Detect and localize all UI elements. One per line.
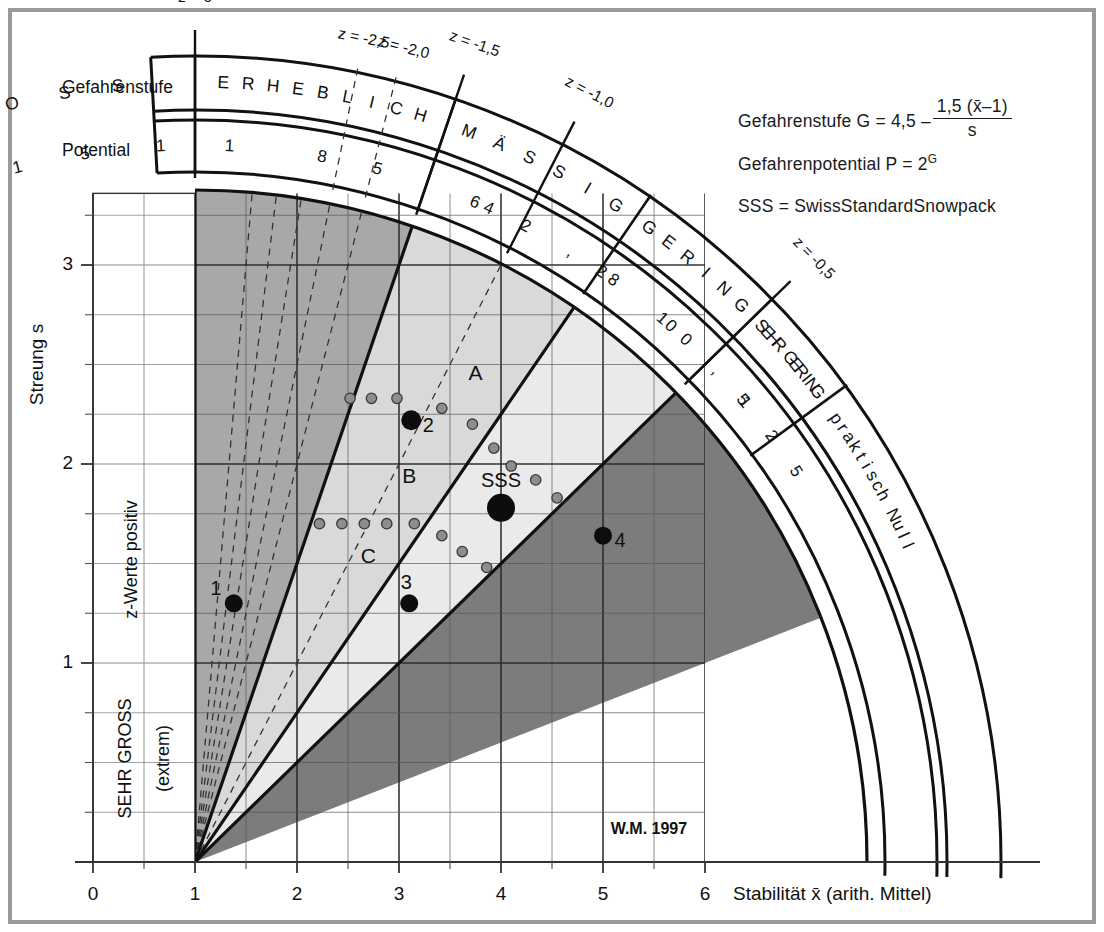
x-tick-label-6: 6 <box>700 883 711 904</box>
legend-sss: SSS = SwissStandardSnowpack <box>738 196 996 217</box>
svg-text:,: , <box>708 362 725 378</box>
gefahrenstufe-label: Gefahrenstufe <box>62 77 173 97</box>
svg-text:S: S <box>520 146 539 169</box>
formula-gefahrenstufe: Gefahrenstufe G = 4,5 –1,5 (x̄–1)s <box>738 96 1014 141</box>
potential-value-7: 2,8 <box>517 215 623 290</box>
svg-text:B: B <box>315 81 330 103</box>
svg-text:,: , <box>422 174 433 194</box>
region-label-A: A <box>468 361 482 384</box>
label-extrem: (extrem) <box>153 725 173 792</box>
data-point-label-SSS: SSS <box>481 469 521 491</box>
svg-text:8: 8 <box>316 146 329 166</box>
x-tick-label-0: 0 <box>88 883 99 904</box>
svg-text:M: M <box>459 119 480 143</box>
z-line-label-1: z = 0 <box>178 0 212 5</box>
z-line-label-4: z = -1,5 <box>447 27 502 60</box>
y-axis-title: Streung s <box>26 324 47 405</box>
x-tick-label-2: 2 <box>292 883 303 904</box>
svg-text:E: E <box>217 72 229 92</box>
svg-text:G: G <box>730 293 754 317</box>
svg-text:C: C <box>388 97 405 120</box>
region-label-C: C <box>361 544 376 567</box>
potential-label: Potential <box>62 140 130 160</box>
svg-text:Ä: Ä <box>490 132 509 155</box>
svg-text:O: O <box>3 92 21 115</box>
z-line-label-3: z = -1,0 <box>563 72 617 111</box>
formula-denominator: s <box>933 118 1012 141</box>
label-z-werte-positiv: z-Werte positiv <box>121 500 141 619</box>
svg-text:H: H <box>411 103 429 126</box>
svg-text:G: G <box>638 215 661 239</box>
data-point-label-3: 3 <box>401 571 412 593</box>
svg-text:E: E <box>658 230 679 253</box>
credit-text: W.M. 1997 <box>611 820 688 837</box>
figure-page: GROSSERHEBLICHMÄSSIGGERINGSEHR GERINGpra… <box>0 0 1104 932</box>
y-tick-label-2: 2 <box>62 452 73 473</box>
svg-text:0: 0 <box>676 329 696 349</box>
svg-text:I: I <box>698 263 715 281</box>
svg-text:5: 5 <box>786 462 807 480</box>
formula-numerator: 1,5 (x̄–1) <box>933 96 1012 118</box>
z-line-label-6: z = -2,5 <box>337 24 391 51</box>
x-tick-label-4: 4 <box>496 883 507 904</box>
potential-value-4: 8 <box>316 146 329 166</box>
x-tick-label-5: 5 <box>598 883 609 904</box>
svg-text:G: G <box>605 193 627 217</box>
svg-text:l: l <box>898 540 918 552</box>
svg-text:E: E <box>291 78 305 99</box>
svg-text:1: 1 <box>11 157 25 178</box>
label-sehr-gross: SEHR GROSS <box>115 699 135 819</box>
svg-text:I: I <box>581 178 595 198</box>
y-tick-label-3: 3 <box>62 253 73 274</box>
formula-gefahrenpotential: Gefahrenpotential P = 2G <box>738 152 937 175</box>
data-point-label-4: 4 <box>614 529 625 551</box>
data-point-label-1: 1 <box>210 577 221 599</box>
potential-text: Gefahrenpotential P = 2 <box>738 154 928 174</box>
svg-text:I: I <box>367 92 376 113</box>
x-tick-label-3: 3 <box>394 883 405 904</box>
svg-text:1: 1 <box>155 136 165 155</box>
formula-lead: Gefahrenstufe G = 4,5 – <box>738 111 931 131</box>
x-tick-label-1: 1 <box>190 883 201 904</box>
svg-text:R: R <box>241 73 255 94</box>
svg-text:2: 2 <box>761 426 782 445</box>
svg-text:,: , <box>700 353 717 370</box>
svg-text:1: 1 <box>224 136 234 155</box>
svg-text:,: , <box>564 242 578 261</box>
svg-text:1: 1 <box>735 392 756 411</box>
data-point-label-2: 2 <box>423 414 434 436</box>
svg-text:6: 6 <box>467 191 483 212</box>
sss-text: SSS = SwissStandardSnowpack <box>738 196 996 216</box>
x-axis-title: Stabilität x̄ (arith. Mittel) <box>733 883 932 904</box>
svg-text:2: 2 <box>517 215 534 236</box>
danger-level-5: SEHR GERING <box>751 315 830 403</box>
potential-exponent: G <box>928 152 937 166</box>
potential-value-5: 5,6 <box>370 158 483 212</box>
svg-text:N: N <box>713 277 736 300</box>
svg-text:H: H <box>266 75 281 96</box>
region-label-B: B <box>402 464 416 487</box>
danger-level-2: ERHEBLICH <box>217 72 429 126</box>
z-line-label-2: z = -0,5 <box>790 233 839 282</box>
svg-text:8: 8 <box>604 269 623 290</box>
y-tick-label-1: 1 <box>62 651 73 672</box>
